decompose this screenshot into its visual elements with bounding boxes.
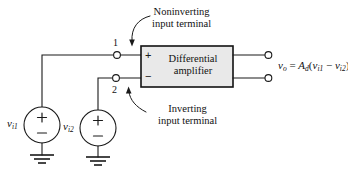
node-2-label: 2 [112,84,117,95]
ground-symbol-1 [30,155,54,163]
amplifier-label-line1: Differential [158,53,228,65]
amplifier-label-line2: amplifier [158,65,228,77]
node-2-terminal [113,75,120,82]
annotation-inverting: Inverting input terminal [158,103,217,127]
node-1-terminal [114,52,121,59]
source-vi1-label: vi1 [7,117,18,131]
output-terminal-bottom [265,75,272,82]
ground-symbol-2 [86,157,110,165]
figure-canvas: Noninverting input terminal Inverting in… [0,0,348,170]
source-vi2-subscript: i2 [68,125,74,134]
source-vi1-subscript: i1 [12,122,18,131]
output-equation: vo = Ad(vi1 − vi2) [278,59,348,73]
noninverting-arrow-curve [132,16,150,41]
amplifier-block-label: Differential amplifier [158,53,228,78]
wire-vi2-to-node2 [98,78,112,110]
inverting-arrow-curve [129,92,146,112]
noninverting-arrowhead [129,40,135,47]
annotation-noninverting-line1: Noninverting [152,6,211,18]
annotation-noninverting: Noninverting input terminal [152,6,211,30]
amplifier-minus-input-sign: − [145,70,151,82]
output-terminal-top [265,52,272,59]
node-1-label: 1 [113,37,118,48]
inverting-arrowhead [126,87,132,94]
wire-vi1-to-node1 [42,55,113,107]
annotation-inverting-line2: input terminal [158,115,217,127]
amplifier-plus-input-sign: + [145,49,151,61]
annotation-inverting-line1: Inverting [158,103,217,115]
annotation-noninverting-line2: input terminal [152,18,211,30]
source-vi2-label: vi2 [63,120,74,134]
